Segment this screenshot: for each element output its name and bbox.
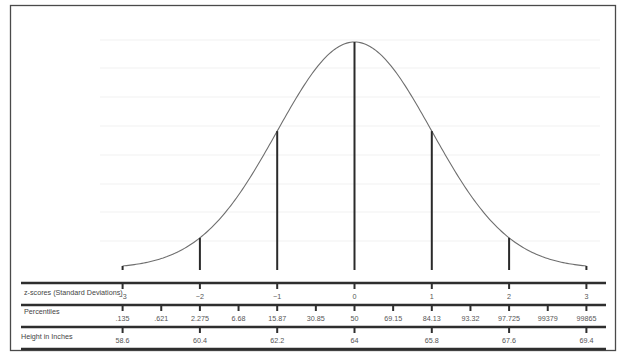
chart-frame (11, 6, 616, 351)
normal-distribution-chart: z-scores (Standard Deviations)−3−2−10123… (0, 0, 621, 355)
tick-label: 1 (430, 292, 434, 301)
tick-label: 30.85 (307, 314, 325, 323)
tick-label: 15.87 (268, 314, 286, 323)
tick-label: 65.8 (425, 336, 439, 345)
tick-label: 99865 (576, 314, 596, 323)
tick-label: 62.2 (270, 336, 284, 345)
scale-rows: z-scores (Standard Deviations)−3−2−10123… (21, 282, 606, 349)
tick-label: 99379 (538, 314, 558, 323)
row-label: Percentiles (24, 307, 60, 316)
tick-label: 84.13 (423, 314, 441, 323)
background-faint-lines (100, 40, 600, 241)
tick-label: 97.725 (498, 314, 520, 323)
tick-label: 93.32 (461, 314, 479, 323)
height-row: Height in Inches58.660.462.26465.867.669… (21, 326, 606, 345)
tick-label: −1 (273, 292, 281, 301)
tick-label: 58.6 (116, 336, 130, 345)
tick-label: 2.275 (191, 314, 209, 323)
tick-label: 0 (353, 292, 357, 301)
tick-label: 50 (351, 314, 359, 323)
tick-label: 6.68 (232, 314, 246, 323)
tick-label: −3 (118, 292, 126, 301)
percentiles-row: Percentiles.135.6212.2756.6815.8730.8550… (21, 304, 606, 323)
tick-label: .135 (116, 314, 130, 323)
tick-label: 69.15 (384, 314, 402, 323)
tick-label: 3 (584, 292, 588, 301)
sd-vertical-markers (123, 42, 587, 270)
tick-label: 67.6 (502, 336, 516, 345)
tick-label: 60.4 (193, 336, 207, 345)
z-scores-row: z-scores (Standard Deviations)−3−2−10123 (21, 282, 606, 301)
tick-label: .621 (154, 314, 168, 323)
tick-label: 2 (507, 292, 511, 301)
row-label: Height in Inches (21, 332, 73, 341)
tick-label: 64 (351, 336, 359, 345)
tick-label: −2 (196, 292, 204, 301)
tick-label: 69.4 (579, 336, 593, 345)
row-label: z-scores (Standard Deviations) (24, 288, 123, 297)
